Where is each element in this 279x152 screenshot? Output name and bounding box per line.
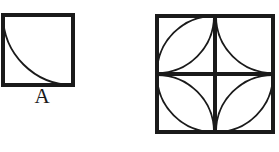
geometry-figure-canvas bbox=[0, 0, 279, 152]
panel-a-label: A bbox=[14, 86, 70, 107]
